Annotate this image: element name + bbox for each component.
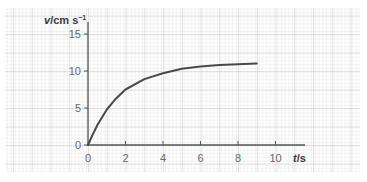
y-tick-label: 5: [75, 102, 81, 114]
x-tick-label: 0: [85, 152, 91, 164]
y-tick-label: 10: [69, 65, 81, 77]
x-tick-label: 4: [160, 152, 166, 164]
x-tick-label: 6: [197, 152, 203, 164]
x-axis-title: t/s: [293, 152, 306, 164]
y-tick-label: 0: [75, 139, 81, 151]
graph-paper-grid: [5, 8, 360, 172]
x-tick-label: 2: [122, 152, 128, 164]
y-tick-label: 15: [69, 28, 81, 40]
x-tick-label: 8: [235, 152, 241, 164]
x-tick-label: 10: [269, 152, 281, 164]
velocity-time-chart: 0 5 10 15 0 2 4 6 8 10 v/cm s−1 t/s: [0, 0, 367, 182]
